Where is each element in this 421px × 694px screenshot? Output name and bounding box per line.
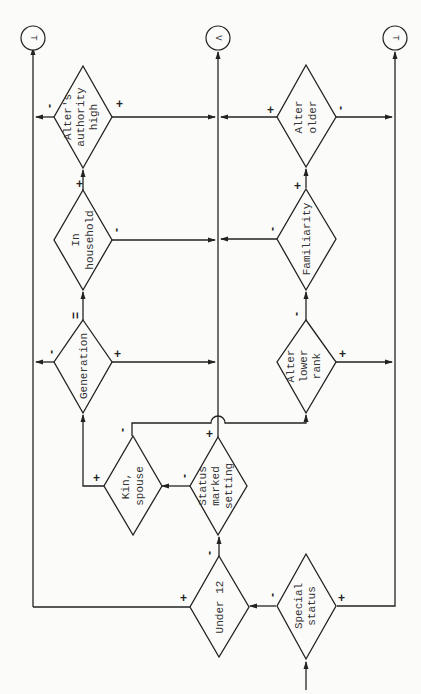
svg-text:spouse: spouse xyxy=(134,466,146,506)
svg-text:marked: marked xyxy=(210,466,222,506)
svg-text:Alter: Alter xyxy=(293,100,305,133)
svg-text:Kin,: Kin, xyxy=(120,473,132,499)
svg-text:T: T xyxy=(390,35,400,41)
svg-text:-: - xyxy=(334,106,348,110)
svg-text:Familiarity: Familiarity xyxy=(301,202,313,275)
decision-in-household: In household + - xyxy=(54,177,124,290)
svg-text:older: older xyxy=(307,100,319,133)
svg-text:In: In xyxy=(70,233,82,246)
svg-text:+: + xyxy=(206,427,213,441)
svg-text:+: + xyxy=(93,471,100,485)
decision-alter-older: Alter older + - xyxy=(267,65,348,167)
svg-text:Alter's: Alter's xyxy=(62,94,74,140)
svg-text:V: V xyxy=(213,35,223,41)
svg-text:+: + xyxy=(267,103,274,117)
decision-under-12: Under 12 + - xyxy=(180,551,249,657)
terminal-top-middle: V xyxy=(206,26,230,50)
svg-text:=: = xyxy=(68,312,82,319)
svg-text:Alter: Alter xyxy=(285,349,297,382)
svg-text:-: - xyxy=(178,474,192,478)
svg-text:Status: Status xyxy=(197,466,209,506)
svg-text:-: - xyxy=(266,227,280,231)
svg-text:lower: lower xyxy=(298,349,310,382)
decision-special-status: Special status + - xyxy=(266,554,345,659)
svg-text:high: high xyxy=(88,104,100,130)
svg-text:Generation: Generation xyxy=(78,333,90,399)
svg-text:status: status xyxy=(306,586,318,626)
svg-text:rank: rank xyxy=(311,352,323,379)
svg-text:+: + xyxy=(294,179,301,193)
decision-kin-spouse: Kin, spouse + - xyxy=(93,428,162,535)
svg-text:+: + xyxy=(180,591,187,605)
svg-text:-: - xyxy=(203,551,217,555)
svg-text:+: + xyxy=(338,591,345,605)
svg-text:-: - xyxy=(110,228,124,232)
svg-text:authority: authority xyxy=(75,87,87,147)
svg-text:setting: setting xyxy=(223,463,235,509)
terminal-top-right: T xyxy=(383,26,407,50)
svg-text:Under 12: Under 12 xyxy=(214,581,226,634)
svg-text:+: + xyxy=(116,97,123,111)
decision-alter-lower-rank: Alter lower rank + - xyxy=(277,312,346,413)
svg-text:+: + xyxy=(339,347,346,361)
decision-familiarity: Familiarity + - xyxy=(266,179,336,290)
svg-text:-: - xyxy=(266,593,280,597)
svg-text:-: - xyxy=(43,104,57,108)
terminal-top-left: T xyxy=(21,26,45,50)
flowchart-diagram: T V T Alter's authority high + - In hous… xyxy=(0,0,421,694)
svg-text:Special: Special xyxy=(293,583,305,629)
svg-text:household: household xyxy=(84,210,96,269)
svg-text:-: - xyxy=(45,350,59,354)
svg-text:+: + xyxy=(76,177,83,191)
decision-authority-high: Alter's authority high + - xyxy=(43,66,123,168)
decision-status-marked-setting: Status marked setting + - xyxy=(178,427,247,535)
svg-text:-: - xyxy=(116,428,130,432)
svg-text:+: + xyxy=(114,347,121,361)
svg-text:-: - xyxy=(290,312,304,316)
decision-generation: Generation = - + xyxy=(45,312,121,413)
svg-text:T: T xyxy=(28,35,38,41)
